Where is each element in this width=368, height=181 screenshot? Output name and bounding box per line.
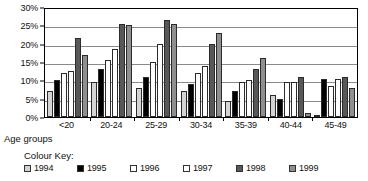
legend-item[interactable]: 1997 [183, 163, 236, 173]
y-axis-tick-label: 15% [21, 58, 38, 68]
x-axis-tick-label: 30-34 [179, 120, 224, 133]
y-axis-tick-label: 30% [21, 3, 38, 13]
bar [143, 77, 149, 117]
x-axis-tick-label: 20-24 [89, 120, 134, 133]
legend-item-label: 1998 [246, 163, 265, 173]
legend-item-label: 1999 [299, 163, 318, 173]
bar-group [223, 9, 268, 117]
legend-item[interactable]: 1996 [130, 163, 183, 173]
legend-item[interactable]: 1995 [77, 163, 130, 173]
bar [112, 49, 118, 117]
bar [47, 91, 53, 117]
legend-swatch-icon [130, 165, 137, 172]
bar [246, 80, 252, 117]
legend-title: Colour Key: [24, 150, 74, 161]
y-axis: 0%5%10%15%20%25%30% [0, 8, 44, 118]
bar-group [134, 9, 179, 117]
bar [171, 24, 177, 118]
legend-swatch-icon [24, 165, 31, 172]
bar [277, 99, 283, 117]
bar [195, 73, 201, 117]
legend-swatch-icon [77, 165, 84, 172]
legend-swatch-icon [183, 165, 190, 172]
plot-area [44, 8, 358, 118]
bar [119, 24, 125, 118]
x-axis-tick-label: 25-29 [134, 120, 179, 133]
bar [270, 95, 276, 117]
bar [232, 91, 238, 117]
bar [61, 73, 67, 117]
bar [68, 71, 74, 117]
bar-group [45, 9, 90, 117]
bar [291, 82, 297, 117]
x-axis-labels: <2020-2425-2930-3435-3940-4445-49 [44, 120, 358, 133]
bar [335, 79, 341, 118]
bar [82, 55, 88, 117]
x-axis-title: Age groups [4, 133, 53, 144]
legend-item[interactable]: 1994 [24, 163, 77, 173]
y-axis-tick-label: 20% [21, 40, 38, 50]
legend-item-label: 1996 [140, 163, 159, 173]
legend-swatch-icon [236, 165, 243, 172]
bar [314, 115, 320, 117]
bar-group [268, 9, 313, 117]
bar [342, 77, 348, 117]
x-axis-tick-label: 35-39 [223, 120, 268, 133]
y-axis-tick-label: 0% [25, 113, 38, 123]
chart-container: 0%5%10%15%20%25%30% <2020-2425-2930-3435… [0, 0, 368, 181]
bar [150, 62, 156, 117]
bar-groups [45, 9, 357, 117]
legend-item-label: 1994 [34, 163, 53, 173]
bar [298, 77, 304, 117]
legend-item[interactable]: 1998 [236, 163, 289, 173]
bar [239, 82, 245, 117]
y-axis-tick-label: 5% [25, 95, 38, 105]
bar [157, 44, 163, 117]
bar [321, 79, 327, 118]
bar [164, 20, 170, 117]
bar [188, 84, 194, 117]
bar [284, 82, 290, 117]
bar [216, 33, 222, 117]
y-axis-tick-label: 10% [21, 76, 38, 86]
bar [126, 25, 132, 117]
bar [260, 58, 266, 117]
legend: 199419951996199719981999 [24, 163, 354, 173]
bar [328, 86, 334, 117]
legend-item-label: 1995 [87, 163, 106, 173]
bar-group [312, 9, 357, 117]
bar [225, 101, 231, 118]
bar-group [179, 9, 224, 117]
bar [181, 91, 187, 117]
bar [54, 80, 60, 117]
bar-group [90, 9, 135, 117]
bar [305, 113, 311, 117]
bar [91, 82, 97, 117]
bar [349, 88, 355, 117]
x-axis-tick-label: 45-49 [313, 120, 358, 133]
bar [75, 38, 81, 117]
x-axis-tick-label: 40-44 [268, 120, 313, 133]
legend-swatch-icon [289, 165, 296, 172]
bar [136, 88, 142, 117]
legend-item[interactable]: 1999 [289, 163, 342, 173]
y-axis-tick-label: 25% [21, 21, 38, 31]
bar [253, 69, 259, 117]
x-axis-tick-label: <20 [44, 120, 89, 133]
bar [105, 60, 111, 117]
bar [202, 66, 208, 117]
bar [209, 44, 215, 117]
bar [98, 69, 104, 117]
legend-item-label: 1997 [193, 163, 212, 173]
